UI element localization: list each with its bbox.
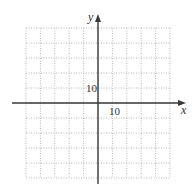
y-axis-label: y (87, 10, 94, 24)
x-axis (12, 100, 186, 106)
coordinate-grid-diagram: y x 10 10 (0, 0, 192, 184)
y-tick-label-10: 10 (86, 82, 98, 94)
x-axis-label: x (180, 103, 187, 117)
y-axis-arrow-icon (95, 14, 101, 22)
y-axis (95, 14, 101, 184)
x-tick-label-10: 10 (109, 105, 121, 117)
